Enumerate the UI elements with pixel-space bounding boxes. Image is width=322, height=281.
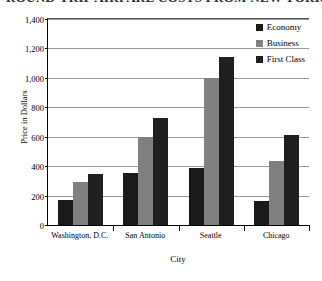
- chart-legend: Economy Business First Class: [256, 23, 305, 64]
- y-tick-label: 0: [40, 221, 44, 231]
- bar-business: [73, 182, 88, 225]
- y-tick-label: 1,000: [25, 74, 44, 84]
- y-tick-label: 600: [31, 133, 44, 143]
- legend-label-business: Business: [267, 39, 299, 48]
- x-axis-category-label: Chicago: [244, 231, 310, 240]
- bar-business: [204, 78, 219, 225]
- bar-economy: [123, 173, 138, 225]
- bar-first: [219, 57, 234, 225]
- legend-label-first-class: First Class: [267, 55, 305, 64]
- y-tick-label: 400: [31, 162, 44, 172]
- plot-area: Economy Business First Class 1,4001,2001…: [47, 18, 309, 225]
- bar-business: [138, 137, 153, 225]
- y-tick-label: 1,200: [25, 44, 44, 54]
- chart-title-clipped: ROUND-TRIP AIRFARE COSTS FROM NEW YORK: [0, 0, 322, 7]
- bar-economy: [189, 168, 204, 225]
- legend-swatch-economy: [256, 24, 263, 31]
- bar-economy: [254, 201, 269, 225]
- x-axis-separator-tick: [309, 225, 310, 231]
- x-axis-category-label: Washington, D.C.: [47, 231, 113, 240]
- bar-first: [153, 118, 168, 225]
- legend-swatch-first-class: [256, 56, 263, 63]
- bar-first: [284, 135, 299, 225]
- bar-group: [113, 19, 178, 225]
- bar-business: [269, 161, 284, 225]
- bar-group: [48, 19, 113, 225]
- legend-label-economy: Economy: [267, 23, 302, 32]
- x-axis-title: City: [47, 254, 309, 264]
- legend-swatch-business: [256, 40, 263, 47]
- legend-item-business: Business: [256, 39, 305, 48]
- y-tick-label: 800: [31, 103, 44, 113]
- legend-item-economy: Economy: [256, 23, 305, 32]
- legend-item-first-class: First Class: [256, 55, 305, 64]
- bar-group: [179, 19, 244, 225]
- x-axis-category-labels: Washington, D.C.San AntonioSeattleChicag…: [47, 231, 309, 240]
- y-tick-label: 200: [31, 192, 44, 202]
- bar-first: [88, 174, 103, 225]
- y-tick-mark: [45, 225, 48, 226]
- x-axis-category-label: San Antonio: [113, 231, 179, 240]
- x-axis-category-label: Seattle: [178, 231, 244, 240]
- y-tick-label: 1,400: [25, 15, 44, 25]
- chart-title-text: ROUND-TRIP AIRFARE COSTS FROM NEW YORK: [6, 0, 316, 6]
- bar-chart: Price in Dollars Economy Business First …: [0, 8, 322, 281]
- bar-economy: [58, 200, 73, 225]
